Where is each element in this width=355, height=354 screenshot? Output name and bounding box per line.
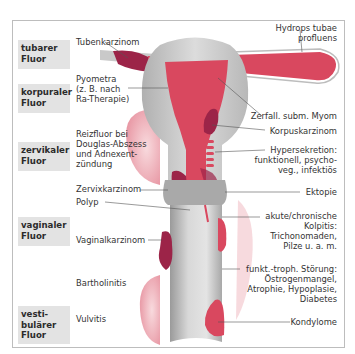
category-label-line: korpuraler — [21, 87, 67, 98]
category-label-line: Fluor — [21, 98, 67, 109]
category-vaginaler-fluor: vaginaler Fluor — [18, 217, 70, 246]
category-label-line: tubarer — [21, 43, 67, 54]
label-line: Kolpitis: — [265, 221, 337, 231]
label-line: Reizfluor bei — [76, 129, 147, 139]
label-polyp: Polyp — [76, 197, 98, 207]
category-label-line: Fluor — [21, 54, 67, 65]
category-label-line: vaginaler — [21, 220, 67, 231]
label-line: Hypersekretion: — [255, 145, 337, 155]
label-hydrops-tubae: Hydrops tubae profluens — [276, 23, 338, 43]
label-line: Tubenkarzinom — [76, 37, 140, 47]
label-korpuskarzinom: Korpuskarzinom — [270, 126, 337, 136]
label-tubenkarzinom: Tubenkarzinom — [76, 37, 140, 47]
label-line: funktionell, psycho- — [255, 155, 337, 165]
label-kolpitis: akute/chronische Kolpitis: Trichonomaden… — [265, 211, 337, 251]
category-label-line: bulärer — [21, 320, 67, 331]
label-line: Zervixkarzinom — [76, 184, 141, 194]
label-line: Trichonomaden, — [265, 231, 337, 241]
category-label-line: vesti- — [21, 309, 67, 320]
label-line: Hydrops tubae — [276, 23, 338, 33]
label-line: Bartholinitis — [76, 278, 126, 288]
label-pyometra: Pyometra (z. B. nach Ra-Therapie) — [76, 74, 129, 104]
label-reizfluor: Reizfluor bei Douglas-Abszess und Adnexe… — [76, 129, 147, 169]
category-label-line: Fluor — [21, 330, 67, 341]
label-zerfall-myom: Zerfall. subm. Myom — [251, 111, 337, 121]
vaginal-carcinoma-lesion — [159, 231, 173, 270]
label-line: Douglas-Abszess — [76, 139, 147, 149]
category-korpuraler-fluor: korpuraler Fluor — [18, 84, 70, 113]
cervix — [163, 180, 227, 205]
label-line: zündung — [76, 159, 147, 169]
label-zervixkarzinom: Zervixkarzinom — [76, 184, 141, 194]
label-ektopie: Ektopie — [306, 187, 337, 197]
category-label-line: Fluor — [21, 231, 67, 242]
category-tubarer-fluor: tubarer Fluor — [18, 40, 70, 69]
label-line: Atrophie, Hypoplasie, — [246, 284, 337, 294]
label-vaginalkarzinom: Vaginalkarzinom — [76, 235, 145, 245]
label-line: veg., infektiös — [255, 165, 337, 175]
label-line: funkt.-troph. Störung: — [246, 264, 337, 274]
category-zervikaler-fluor: zervikaler Fluor — [18, 142, 70, 171]
category-label-line: zervikaler — [21, 145, 67, 156]
label-line: Vulvitis — [76, 314, 106, 324]
label-line: profluens — [276, 33, 338, 43]
label-bartholinitis: Bartholinitis — [76, 278, 126, 288]
label-line: akute/chronische — [265, 211, 337, 221]
label-line: Diabetes — [246, 294, 337, 304]
label-line: Ektopie — [306, 187, 337, 197]
label-line: Pyometra — [76, 74, 129, 84]
label-line: (z. B. nach — [76, 84, 129, 94]
category-vestibulaerer-fluor: vesti- bulärer Fluor — [18, 306, 70, 344]
label-line: Ra-Therapie) — [76, 94, 129, 104]
label-line: Korpuskarzinom — [270, 126, 337, 136]
label-hypersekretion: Hypersekretion: funktionell, psycho- veg… — [255, 145, 337, 175]
colpitis-region — [218, 218, 226, 252]
label-line: Östrogenmangel, — [246, 274, 337, 284]
category-label-line: Fluor — [21, 156, 67, 167]
label-line: und Adnexent- — [76, 149, 147, 159]
label-funkt-troph-stoerung: funkt.-troph. Störung: Östrogenmangel, A… — [246, 264, 337, 304]
label-line: Pilze u. a. m. — [265, 241, 337, 251]
label-line: Zerfall. subm. Myom — [251, 111, 337, 121]
label-kondylome: Kondylome — [290, 317, 337, 327]
label-line: Polyp — [76, 197, 98, 207]
label-vulvitis: Vulvitis — [76, 314, 106, 324]
label-line: Vaginalkarzinom — [76, 235, 145, 245]
label-line: Kondylome — [290, 317, 337, 327]
